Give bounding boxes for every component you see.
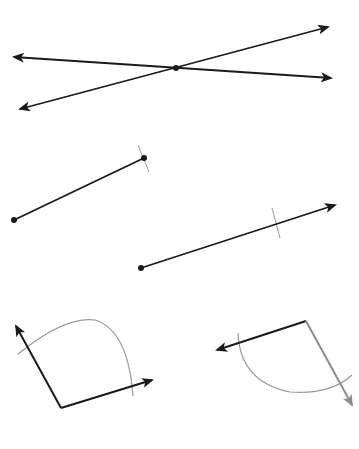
angle-1-construction-arc [18, 320, 133, 396]
angle-2-ray-left [217, 321, 306, 350]
angle-1-ray-right [61, 380, 152, 408]
line-segment-figure [11, 145, 149, 223]
segment-endpoint-a [11, 217, 17, 223]
segment-endpoint-b [141, 155, 147, 161]
intersection-point [173, 65, 179, 71]
angle-2-ray-down [306, 321, 352, 405]
ray-figure [138, 205, 335, 271]
geometry-diagram [0, 0, 359, 449]
intersecting-lines-figure [14, 27, 331, 109]
segment-line [14, 158, 144, 220]
ray-endpoint [138, 265, 144, 271]
ray-line [141, 205, 335, 268]
angle-2-construction-arc [238, 333, 352, 392]
angle-1-figure [16, 320, 152, 408]
angle-2-figure [217, 321, 352, 405]
